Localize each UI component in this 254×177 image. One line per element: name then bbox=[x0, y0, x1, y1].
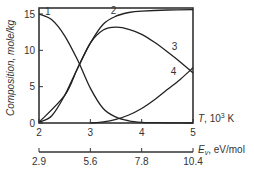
x-tick-label: 3 bbox=[88, 127, 94, 138]
curve-label-4: 4 bbox=[171, 66, 177, 77]
curve-label-1: 1 bbox=[45, 6, 51, 17]
y-tick-label: 5 bbox=[29, 81, 35, 92]
curve-label-2: 2 bbox=[111, 5, 117, 16]
y-tick-label: 0 bbox=[29, 118, 35, 129]
y-axis: 051015 bbox=[24, 9, 43, 129]
y-axis-label: Composition, mole/kg bbox=[5, 19, 16, 116]
x-tick-label: 2 bbox=[36, 127, 42, 138]
curve-4 bbox=[90, 68, 193, 123]
composition-chart: 1234 051015 2345T, 103 K 2.95.67.810.4Ev… bbox=[0, 0, 254, 177]
x-tick-label: 4 bbox=[139, 127, 145, 138]
curve-label-3: 3 bbox=[172, 41, 178, 52]
energy-tick-label: 7.8 bbox=[135, 156, 149, 167]
energy-axis-label: Ev, eV/mol bbox=[198, 144, 245, 156]
energy-tick-label: 5.6 bbox=[83, 156, 97, 167]
energy-tick-label: 10.4 bbox=[183, 156, 203, 167]
x-axis-temperature: 2345T, 103 K bbox=[36, 112, 234, 138]
x-tick-label: 5 bbox=[190, 127, 196, 138]
y-tick-label: 15 bbox=[24, 9, 36, 20]
x-axis-label: T, 103 K bbox=[198, 112, 234, 124]
curve-labels: 1234 bbox=[45, 5, 178, 77]
y-tick-label: 10 bbox=[24, 45, 36, 56]
x-axis-energy: 2.95.67.810.4Ev, eV/mol bbox=[32, 144, 245, 167]
energy-tick-label: 2.9 bbox=[32, 156, 46, 167]
